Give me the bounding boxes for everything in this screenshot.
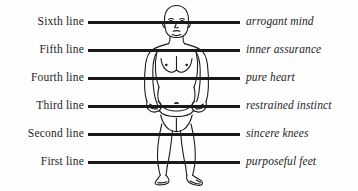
rule-line-4: [88, 77, 240, 80]
right-label-inner-assurance: inner assurance: [246, 44, 321, 56]
left-label-sixth-line: Sixth line: [0, 16, 84, 28]
rule-line-3: [88, 105, 240, 108]
rule-line-2: [88, 133, 240, 136]
right-label-arrogant-mind: arrogant mind: [246, 16, 314, 28]
right-label-restrained-instinct: restrained instinct: [246, 100, 331, 112]
right-label-purposeful-feet: purposeful feet: [246, 156, 316, 168]
rule-line-1: [88, 161, 240, 164]
left-label-first-line: First line: [0, 156, 84, 168]
right-label-pure-heart: pure heart: [246, 72, 295, 84]
body-lines-diagram: Sixth line Fifth line Fourth line Third …: [0, 0, 358, 191]
rule-line-6: [88, 21, 240, 24]
right-label-sincere-knees: sincere knees: [246, 128, 309, 140]
rule-line-5: [88, 49, 240, 52]
left-label-third-line: Third line: [0, 100, 84, 112]
left-label-fifth-line: Fifth line: [0, 44, 84, 56]
left-label-second-line: Second line: [0, 128, 84, 140]
left-label-fourth-line: Fourth line: [0, 72, 84, 84]
